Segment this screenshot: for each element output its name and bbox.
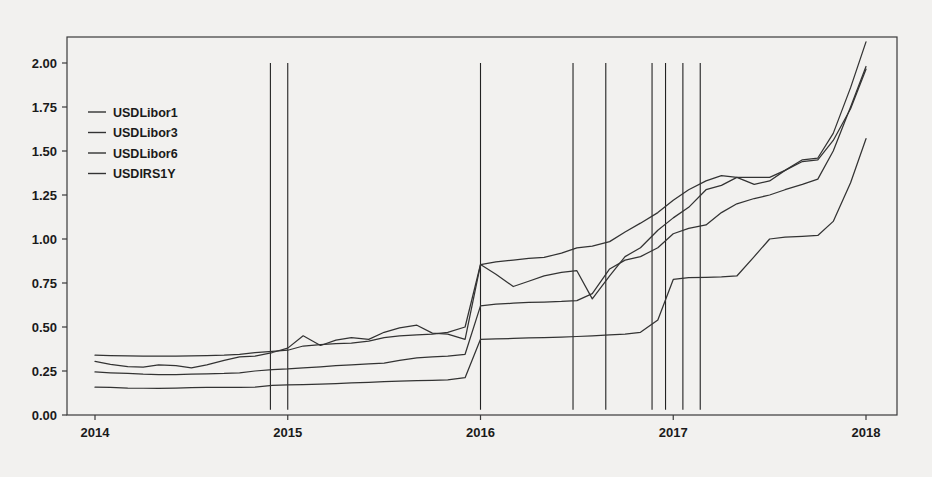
y-tick-label: 1.25 xyxy=(32,188,57,203)
x-tick-label: 2016 xyxy=(466,425,495,440)
legend-label: USDIRS1Y xyxy=(113,167,176,181)
line-chart: 0.000.250.500.751.001.251.501.752.00 201… xyxy=(0,0,932,477)
y-tick-label: 0.75 xyxy=(32,276,57,291)
chart-container: 0.000.250.500.751.001.251.501.752.00 201… xyxy=(0,0,932,477)
x-tick-label: 2015 xyxy=(273,425,302,440)
y-tick-label: 0.00 xyxy=(32,408,57,423)
y-tick-label: 1.00 xyxy=(32,232,57,247)
x-tick-label: 2014 xyxy=(81,425,111,440)
y-tick-label: 0.50 xyxy=(32,320,57,335)
chart-background xyxy=(0,0,932,477)
y-tick-label: 2.00 xyxy=(32,56,57,71)
y-tick-label: 0.25 xyxy=(32,364,57,379)
x-tick-label: 2017 xyxy=(659,425,688,440)
legend-label: USDLibor3 xyxy=(113,126,178,140)
y-tick-label: 1.50 xyxy=(32,144,57,159)
legend-label: USDLibor6 xyxy=(113,147,178,161)
x-tick-label: 2018 xyxy=(852,425,881,440)
y-tick-label: 1.75 xyxy=(32,100,57,115)
legend-label: USDLibor1 xyxy=(113,106,178,120)
